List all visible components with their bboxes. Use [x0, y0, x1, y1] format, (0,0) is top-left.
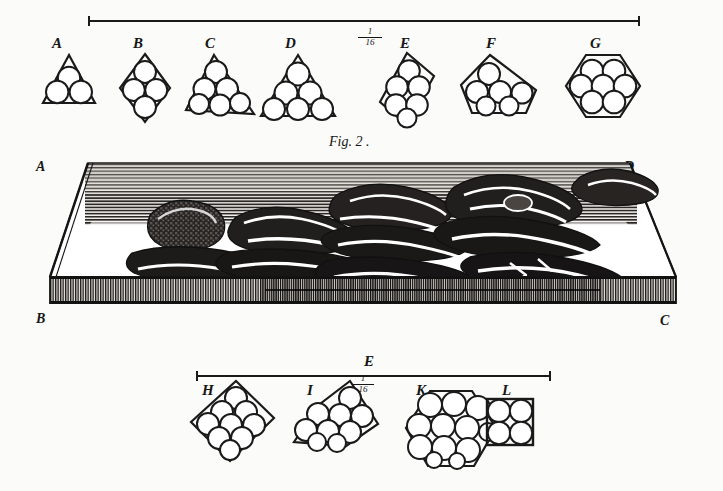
top-scale-fraction-numerator: 1	[358, 27, 382, 36]
packing-figure-i	[288, 378, 388, 456]
figure-label-a: A	[52, 36, 62, 51]
top-scale-rule	[88, 20, 640, 22]
figure-label-b: B	[133, 36, 143, 51]
figure-label-e: E	[400, 36, 410, 51]
top-scale-bar	[88, 16, 640, 25]
figure-label-c: C	[205, 36, 215, 51]
packing-figure-e	[376, 50, 438, 128]
top-scale-fraction-denominator: 16	[358, 38, 382, 47]
packing-figure-b	[116, 52, 174, 124]
packing-figure-h	[186, 378, 280, 464]
packing-figure-l	[484, 396, 536, 448]
bottom-scale-label-e: E	[364, 354, 374, 369]
packing-figure-f	[458, 52, 542, 116]
figure-label-g: G	[590, 36, 601, 51]
packing-figure-d	[258, 52, 338, 120]
packing-figure-a	[40, 52, 98, 108]
figure-label-f: F	[486, 36, 496, 51]
packing-figure-g	[563, 52, 643, 120]
top-scale-fraction: 1 16	[358, 27, 382, 47]
fig-2-engraving	[40, 157, 680, 332]
packing-figure-c	[182, 52, 258, 118]
figure-2-caption: Fig. 2 .	[329, 134, 369, 150]
engraving-plate: 1 16 A B C	[0, 0, 723, 491]
bottom-scale-tick-right	[549, 371, 551, 381]
top-scale-tick-right	[638, 16, 640, 26]
figure-label-d: D	[285, 36, 296, 51]
